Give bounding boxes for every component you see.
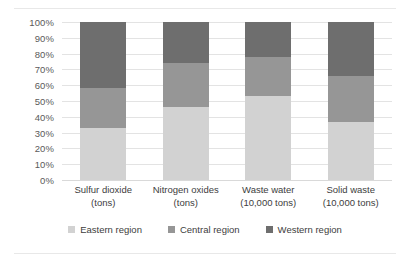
y-axis-tick-label: 50%	[35, 96, 54, 107]
category-label-line-1: Waste water	[242, 184, 294, 195]
category-label-line-2: (10,000 tons)	[299, 197, 403, 210]
y-axis-tick-label: 30%	[35, 127, 54, 138]
legend-item[interactable]: Central region	[168, 224, 240, 235]
y-axis-tick-label: 90%	[35, 32, 54, 43]
chart-legend: Eastern regionCentral regionWestern regi…	[0, 224, 410, 235]
legend-item[interactable]: Western region	[266, 224, 342, 235]
bar-column[interactable]	[163, 22, 209, 180]
category-label-line-1: Solid waste	[326, 184, 375, 195]
stacked-bar-chart: 100%90%80%70%60%50%40%30%20%10%0% Sulfur…	[0, 0, 410, 261]
bar-segment[interactable]	[245, 22, 291, 57]
legend-swatch-icon	[266, 226, 273, 233]
y-axis-tick-label: 10%	[35, 159, 54, 170]
x-axis-category-labels: Sulfur dioxide(tons)Nitrogen oxides(tons…	[62, 184, 392, 218]
y-axis: 100%90%80%70%60%50%40%30%20%10%0%	[14, 22, 58, 180]
y-axis-tick-label: 70%	[35, 64, 54, 75]
bar-segment[interactable]	[163, 22, 209, 63]
bar-segment[interactable]	[328, 122, 374, 180]
y-axis-tick-label: 20%	[35, 143, 54, 154]
y-axis-tick-label: 80%	[35, 48, 54, 59]
bar-segment[interactable]	[163, 107, 209, 180]
legend-label: Eastern region	[80, 224, 142, 235]
category-label-line-1: Nitrogen oxides	[153, 184, 219, 195]
y-axis-tick-label: 100%	[29, 17, 54, 28]
bar-stack	[80, 22, 126, 180]
bar-segment[interactable]	[80, 22, 126, 88]
legend-swatch-icon	[68, 226, 75, 233]
legend-label: Western region	[278, 224, 342, 235]
x-axis-category-label: Solid waste(10,000 tons)	[299, 184, 403, 209]
y-axis-tick-label: 60%	[35, 80, 54, 91]
legend-item[interactable]: Eastern region	[68, 224, 142, 235]
bar-segment[interactable]	[80, 88, 126, 128]
y-axis-tick-label: 40%	[35, 111, 54, 122]
bar-stack	[163, 22, 209, 180]
legend-label: Central region	[180, 224, 240, 235]
top-divider	[14, 8, 396, 9]
bar-column[interactable]	[328, 22, 374, 180]
bar-stack	[328, 22, 374, 180]
bar-segment[interactable]	[245, 57, 291, 97]
bar-segment[interactable]	[328, 22, 374, 76]
plot-area	[62, 22, 392, 180]
bar-column[interactable]	[80, 22, 126, 180]
bar-column[interactable]	[245, 22, 291, 180]
bar-segment[interactable]	[245, 96, 291, 180]
legend-swatch-icon	[168, 226, 175, 233]
gridline	[62, 180, 392, 181]
bar-segment[interactable]	[163, 63, 209, 107]
bottom-divider	[14, 253, 396, 254]
bar-stack	[245, 22, 291, 180]
bar-segment[interactable]	[328, 76, 374, 122]
bar-segment[interactable]	[80, 128, 126, 180]
category-label-line-1: Sulfur dioxide	[74, 184, 132, 195]
